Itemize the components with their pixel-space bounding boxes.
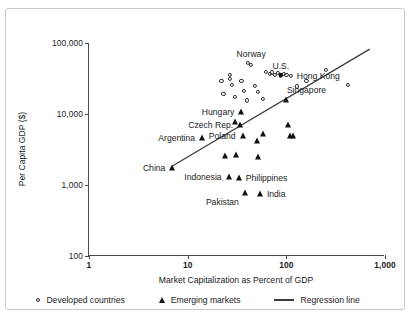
developed-country-point <box>233 95 237 99</box>
emerging-market-point <box>240 133 246 139</box>
legend-label-regression: Regression line <box>300 295 359 305</box>
developed-country-point <box>221 92 225 96</box>
emerging-market-point <box>255 153 261 159</box>
point-label-pakistan: Pakistan <box>206 197 239 207</box>
developed-country-point <box>242 89 246 93</box>
regression-line <box>89 43 385 256</box>
y-tick-mark <box>85 185 89 186</box>
x-tick-mark <box>89 255 90 259</box>
developed-country-point <box>253 84 257 88</box>
point-label-philippines: Philippines <box>246 173 288 183</box>
y-tick-label: 100,000 <box>52 38 83 48</box>
emerging-market-point <box>254 137 260 143</box>
developed-country-point <box>245 98 249 102</box>
x-tick-label: 1,000 <box>374 260 395 270</box>
developed-country-point <box>228 72 232 76</box>
legend-item-emerging: Emerging markets <box>159 295 241 305</box>
y-tick-mark <box>85 114 89 115</box>
emerging-market-point <box>236 175 242 181</box>
y-axis-title: Per Capita GDP ($) <box>17 112 27 186</box>
developed-country-point <box>346 83 350 87</box>
point-label-china: China <box>143 163 165 173</box>
legend-item-developed: Developed countries <box>36 295 125 305</box>
legend-label-developed: Developed countries <box>46 295 124 305</box>
y-tick-mark <box>85 43 89 44</box>
developed-country-point <box>284 72 288 76</box>
emerging-market-point <box>237 122 243 128</box>
x-axis-title: Market Capitalization as Percent of GDP <box>159 275 313 285</box>
legend-label-emerging: Emerging markets <box>171 295 241 305</box>
emerging-market-point <box>260 131 266 137</box>
emerging-market-point <box>226 173 232 179</box>
x-tick-label: 10 <box>183 260 193 270</box>
figure-container: Per Capita GDP ($) Market Capitalization… <box>0 0 416 328</box>
point-label-hungary: Hungary <box>202 107 234 117</box>
emerging-market-point <box>233 151 239 157</box>
point-label-poland: Poland <box>209 131 236 141</box>
line-swatch-icon <box>274 299 294 300</box>
emerging-market-point <box>283 97 289 103</box>
point-label-argentina: Argentina <box>158 133 195 143</box>
x-tick-mark <box>385 255 386 259</box>
point-label-norway: Norway <box>237 49 266 59</box>
developed-country-point <box>249 63 253 67</box>
chart-legend: Developed countries Emerging markets Reg… <box>36 292 388 308</box>
developed-country-point <box>261 96 265 100</box>
point-label-singapore: Singapore <box>287 85 326 95</box>
developed-country-point <box>230 82 234 86</box>
x-tick-mark <box>188 255 189 259</box>
y-tick-label: 10,000 <box>57 109 83 119</box>
point-label-indonesia: Indonesia <box>184 172 221 182</box>
y-tick-label: 1,000 <box>62 180 83 190</box>
open-circle-icon <box>36 298 40 302</box>
emerging-market-point <box>238 108 244 114</box>
emerging-market-point <box>285 122 291 128</box>
developed-country-point <box>219 79 223 83</box>
developed-country-point <box>239 79 243 83</box>
x-tick-label: 100 <box>279 260 293 270</box>
developed-country-point <box>289 74 293 78</box>
x-tick-label: 1 <box>87 260 92 270</box>
point-label-india: India <box>267 189 286 199</box>
legend-item-regression: Regression line <box>274 295 359 305</box>
developed-country-point <box>228 77 232 81</box>
plot-area: 1001,00010,000100,000 1101001,000 Norway… <box>88 43 384 256</box>
emerging-market-point <box>169 164 175 170</box>
y-tick-label: 100 <box>69 251 83 261</box>
emerging-market-point <box>257 191 263 197</box>
developed-country-point <box>256 90 260 94</box>
developed-country-point-us <box>279 73 284 78</box>
filled-triangle-icon <box>159 297 165 303</box>
point-label-u-s: U.S. <box>272 61 289 71</box>
emerging-market-point <box>199 134 205 140</box>
x-tick-mark <box>286 255 287 259</box>
emerging-market-point <box>222 152 228 158</box>
point-label-czech-rep: Czech Rep. <box>188 120 233 130</box>
figure-frame: Per Capita GDP ($) Market Capitalization… <box>5 8 405 310</box>
emerging-market-point <box>242 189 248 195</box>
point-label-hong-kong: Hong Kong <box>297 71 340 81</box>
emerging-market-point <box>290 133 296 139</box>
